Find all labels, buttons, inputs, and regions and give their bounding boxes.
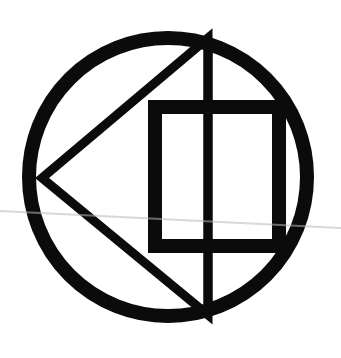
canvas-background [0, 0, 341, 358]
drawing-canvas: Circle with inscribed left-pointing tria… [0, 0, 341, 358]
geometric-symbol: Circle with inscribed left-pointing tria… [0, 0, 341, 358]
